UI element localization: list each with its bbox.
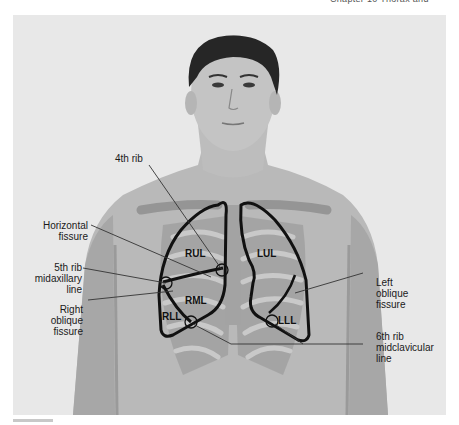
callout-4th-rib: 4th rib [115, 153, 143, 164]
callout-text: oblique [33, 315, 83, 326]
callout-text: oblique [376, 288, 408, 299]
callout-text: 5th rib [30, 262, 82, 273]
callout-text: midclavicular [376, 342, 434, 353]
lobe-label-rul: RUL [185, 248, 206, 259]
callout-text: fissure [33, 326, 83, 337]
callout-5th-rib: 5th rib midaxillary line [30, 262, 82, 295]
header-text: Chapter 10 Thorax and Lungs [330, 0, 450, 5]
lobe-label-lul: LUL [257, 248, 276, 259]
lobe-label-lll: LLL [278, 315, 296, 326]
callout-4th-rib-text: 4th rib [115, 153, 143, 164]
callout-left-oblique-fissure: Left oblique fissure [376, 277, 408, 310]
callout-text: line [376, 353, 434, 364]
callout-text: line [30, 284, 82, 295]
lobe-label-rml: RML [185, 295, 207, 306]
callout-right-oblique-fissure: Right oblique fissure [33, 304, 83, 337]
torso-photo: RUL RML RLL LUL LLL 4th rib Horizontal f… [13, 15, 446, 415]
callout-text: fissure [38, 231, 88, 242]
callout-6th-rib: 6th rib midclavicular line [376, 331, 434, 364]
callout-text: Left [376, 277, 408, 288]
callout-horizontal-fissure: Horizontal fissure [38, 220, 88, 242]
figure-number-bar [13, 419, 53, 422]
cropped-header-text: Chapter 10 Thorax and Lungs [330, 0, 450, 5]
callout-text: midaxillary [30, 273, 82, 284]
callout-text: Right [33, 304, 83, 315]
callout-text: fissure [376, 299, 408, 310]
callout-text: Horizontal [38, 220, 88, 231]
lobe-label-rll: RLL [162, 311, 181, 322]
callout-text: 6th rib [376, 331, 434, 342]
